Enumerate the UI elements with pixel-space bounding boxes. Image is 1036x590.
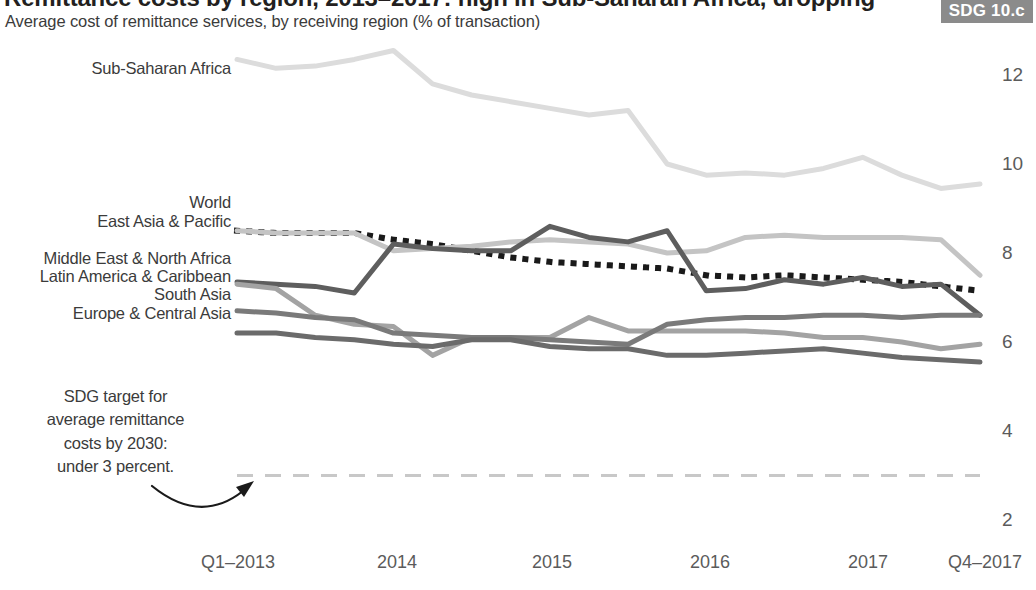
x-tick-label: 2017 (848, 552, 888, 573)
x-tick-label: Q1–2013 (201, 552, 275, 573)
x-tick-label: Q4–2017 (948, 552, 1022, 573)
x-tick-label: 2014 (377, 552, 417, 573)
series-line-sub-saharan-africa (237, 51, 980, 189)
series-label-world: World (189, 193, 231, 212)
series-label-latin-america-caribbean: Latin America & Caribbean (40, 267, 231, 286)
y-tick-label: 10 (1002, 153, 1036, 175)
series-label-south-asia: South Asia (154, 285, 231, 304)
annotation-line-4: under 3 percent. (8, 455, 223, 478)
y-tick-label: 6 (1002, 331, 1036, 353)
series-label-east-asia-pacific: East Asia & Pacific (97, 212, 231, 231)
annotation-line-1: SDG target for (8, 385, 223, 408)
annotation-arrow-icon (152, 481, 254, 507)
series-label-sub-saharan-africa: Sub-Saharan Africa (92, 59, 232, 78)
series-label-europe-central-asia: Europe & Central Asia (73, 304, 231, 323)
annotation-line-3: costs by 2030: (8, 432, 223, 455)
series-layer (237, 51, 980, 476)
x-tick-label: 2015 (532, 552, 572, 573)
y-tick-label: 12 (1002, 64, 1036, 86)
annotation-line-2: average remittance (8, 408, 223, 431)
sdg-target-annotation: SDG target for average remittance costs … (8, 385, 223, 479)
x-tick-label: 2016 (690, 552, 730, 573)
y-tick-label: 2 (1002, 509, 1036, 531)
chart-page: Remittance costs by region, 2013–2017: h… (0, 0, 1036, 590)
y-tick-label: 4 (1002, 420, 1036, 442)
y-tick-label: 8 (1002, 242, 1036, 264)
series-label-middle-east-north-africa: Middle East & North Africa (44, 249, 231, 268)
